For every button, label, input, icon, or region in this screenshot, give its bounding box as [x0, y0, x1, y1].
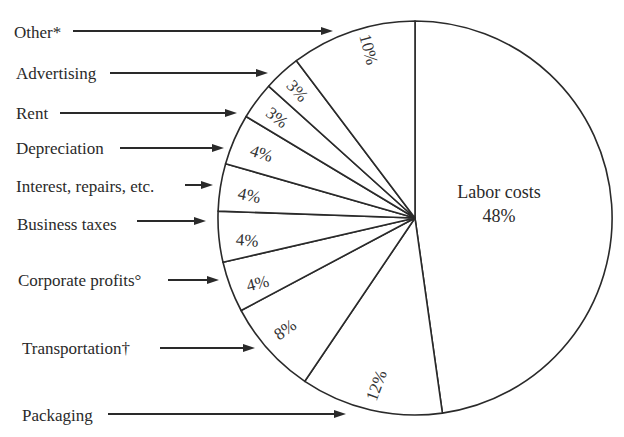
pie-slices: [218, 21, 612, 415]
pie-chart: Other*AdvertisingRentDepreciationInteres…: [0, 0, 624, 437]
arrowhead-icon: [256, 69, 268, 77]
legend-label: Rent: [16, 104, 48, 123]
arrowhead-icon: [243, 344, 255, 352]
callout-transportation: Transportation†: [22, 339, 255, 358]
callout-packaging: Packaging: [22, 406, 346, 425]
legend-label: Corporate profits°: [18, 271, 141, 290]
legend-label: Advertising: [16, 64, 97, 83]
legend-label: Business taxes: [17, 215, 117, 234]
arrowhead-icon: [321, 27, 333, 35]
arrowhead-icon: [225, 109, 237, 117]
legend-label: Interest, repairs, etc.: [16, 177, 154, 196]
legend-label: Transportation†: [22, 339, 130, 358]
arrowhead-icon: [212, 144, 224, 152]
labor-costs-value: 48%: [483, 206, 516, 226]
callout-other: Other*: [14, 23, 333, 42]
callout-advertising: Advertising: [16, 64, 268, 83]
callout-depreciation: Depreciation: [16, 139, 224, 158]
arrowhead-icon: [207, 276, 219, 284]
legend-label: Other*: [14, 23, 61, 42]
arrowhead-icon: [334, 410, 346, 418]
slice-percent-label: 4%: [235, 230, 259, 251]
callout-corporate-profits: Corporate profits°: [18, 271, 219, 290]
legend-label: Packaging: [22, 406, 93, 425]
callout-business-taxes: Business taxes: [17, 215, 206, 234]
arrowhead-icon: [201, 181, 213, 189]
callout-rent: Rent: [16, 104, 237, 123]
arrowhead-icon: [194, 217, 206, 225]
labor-costs-label: Labor costs: [457, 182, 540, 202]
callout-interest-repairs-etc: Interest, repairs, etc.: [16, 177, 213, 196]
legend-label: Depreciation: [16, 139, 104, 158]
